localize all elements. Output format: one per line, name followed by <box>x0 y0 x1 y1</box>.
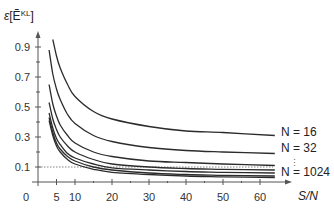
y-tick-label: 0.7 <box>15 71 30 83</box>
y-tick-label: 0.1 <box>15 161 30 173</box>
x-tick-label: 40 <box>180 191 192 203</box>
y-tick-label: 0.9 <box>15 41 30 53</box>
x-tick-label: 10 <box>69 191 81 203</box>
label-n16: N = 16 <box>281 125 317 139</box>
x-tick-label: 5 <box>53 191 59 203</box>
x-tick-label: 20 <box>106 191 118 203</box>
label-n1024: N = 1024 <box>281 165 330 179</box>
x-tick-label: 30 <box>143 191 155 203</box>
y-axis-label: ε[ẼKL] <box>4 9 34 23</box>
curve-n64 <box>49 85 275 166</box>
curve-n32 <box>49 50 275 154</box>
y-tick-label: 0.5 <box>15 101 30 113</box>
curves <box>49 40 275 178</box>
x-tick-label: 0 <box>23 191 29 203</box>
curve-n128 <box>49 103 275 171</box>
x-tick-label: 50 <box>217 191 229 203</box>
x-axis-arrow <box>285 180 292 185</box>
curve-n16 <box>53 40 275 136</box>
x-ticks: 05102030405060 <box>23 179 266 203</box>
line-chart: 05102030405060 0.10.30.50.70.9 ε[ẼKL] S/… <box>0 0 334 209</box>
x-tick-label: 60 <box>254 191 266 203</box>
y-axis-label-sup: KL <box>21 9 31 18</box>
y-axis-arrow <box>36 31 41 38</box>
x-axis-label: S/N <box>298 189 318 203</box>
label-n32: N = 32 <box>281 141 317 155</box>
y-tick-label: 0.3 <box>15 131 30 143</box>
y-ticks: 0.10.30.50.70.9 <box>15 41 41 173</box>
